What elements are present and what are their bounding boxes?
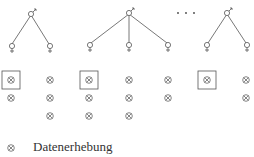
ellipsis-dots [177, 12, 195, 14]
data-collection-icon [126, 113, 133, 120]
data-collection-icon [47, 95, 54, 102]
female-icon [87, 42, 92, 52]
data-collection-icon [47, 113, 54, 120]
data-collection-icon [198, 71, 216, 89]
female-icon [165, 42, 170, 52]
data-collection-icon [86, 95, 93, 102]
data-collection-icon [126, 95, 133, 102]
data-collection-icon [80, 71, 98, 89]
tree-2 [91, 14, 167, 43]
data-collection-icon [2, 71, 20, 89]
female-icon [9, 43, 14, 53]
female-icon [126, 42, 131, 52]
data-collection-icon [243, 77, 250, 84]
data-collection-icon [8, 145, 15, 152]
data-collection-icon [86, 113, 93, 120]
male-icon [126, 8, 134, 16]
data-collection-icon [8, 95, 15, 102]
male-icon [28, 9, 36, 17]
tree-3 [208, 14, 246, 43]
data-collection-icon [126, 77, 133, 84]
male-icon [224, 8, 232, 16]
data-collection-icon [165, 95, 172, 102]
female-icon [47, 43, 52, 53]
data-collection-icon [243, 95, 250, 102]
female-icon [244, 42, 249, 52]
female-icon [204, 42, 209, 52]
data-collection-grid [2, 71, 249, 119]
pedigree-diagram [0, 0, 254, 157]
data-collection-icon [165, 77, 172, 84]
data-collection-icon [47, 77, 54, 84]
legend-label: Datenerhebung [33, 140, 112, 154]
tree-1 [12, 15, 49, 44]
